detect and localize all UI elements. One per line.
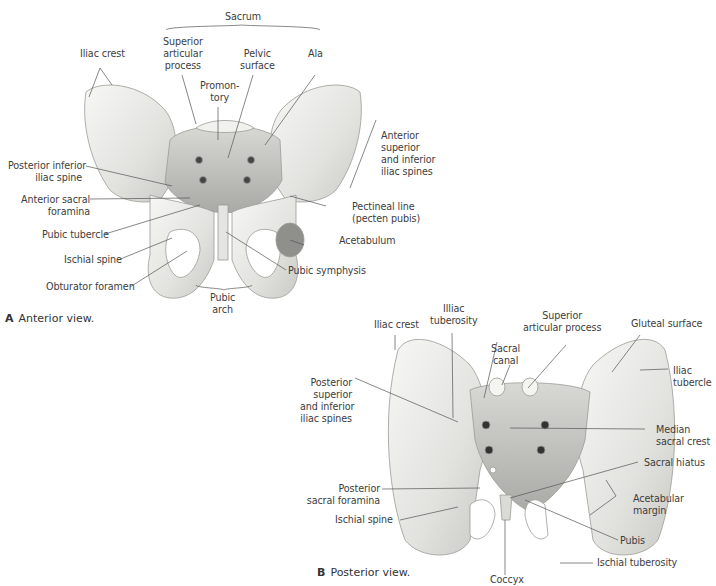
label-pubis: Pubis <box>620 535 645 547</box>
label-posterior-sacral-foramina: Posterior sacral foramina <box>300 483 380 507</box>
label-iliac-crest-a: Iliac crest <box>80 48 125 60</box>
label-iliac-tubercle: Iliac tubercle <box>673 365 712 389</box>
label-sacrum: Sacrum <box>225 11 261 23</box>
label-superior-articular-process-b: Superior articular process <box>523 310 601 334</box>
label-promontory: Promon- tory <box>200 80 239 104</box>
label-ala: Ala <box>308 48 323 60</box>
label-pubic-arch: Pubic arch <box>210 292 235 316</box>
label-illiac-tuberosity: Illiac tuberosity <box>430 303 478 327</box>
label-posterior-inferior-iliac-spine: Posterior inferior iliac spine <box>8 160 82 184</box>
label-gluteal-surface: Gluteal surface <box>631 318 702 330</box>
label-ischial-tuberosity: Ischial tuberosity <box>597 557 677 569</box>
label-coccyx: Coccyx <box>490 574 524 586</box>
label-anterior-iliac-spines: Anterior superior and inferior iliac spi… <box>381 130 435 178</box>
label-sacral-hiatus: Sacral hiatus <box>644 457 705 469</box>
label-pectineal-line: Pectineal line (pecten pubis) <box>352 201 420 225</box>
caption-posterior-view: BPosterior view. <box>317 566 410 579</box>
label-iliac-crest-b: Iliac crest <box>374 319 419 331</box>
label-acetabulum: Acetabulum <box>339 235 395 247</box>
label-posterior-iliac-spines: Posterior superior and inferior iliac sp… <box>300 377 352 425</box>
label-pubic-symphysis: Pubic symphysis <box>288 265 366 277</box>
label-ischial-spine-b: Ischial spine <box>335 514 393 526</box>
label-median-sacral-crest: Median sacral crest <box>656 424 710 448</box>
label-pubic-tubercle: Pubic tubercle <box>42 229 109 241</box>
caption-anterior-view: AAnterior view. <box>5 312 94 325</box>
label-obturator-foramen: Obturator foramen <box>46 281 135 293</box>
posterior-pelvis <box>388 339 674 555</box>
label-sacral-canal: Sacral canal <box>491 343 520 367</box>
label-pelvic-surface: Pelvic surface <box>240 48 275 72</box>
label-superior-articular-process-a: Superior articular process <box>163 36 203 72</box>
label-acetabular-margin: Acetabular margin <box>633 493 684 517</box>
label-ischial-spine-a: Ischial spine <box>64 254 122 266</box>
label-anterior-sacral-foramina: Anterior sacral foramina <box>20 194 90 218</box>
